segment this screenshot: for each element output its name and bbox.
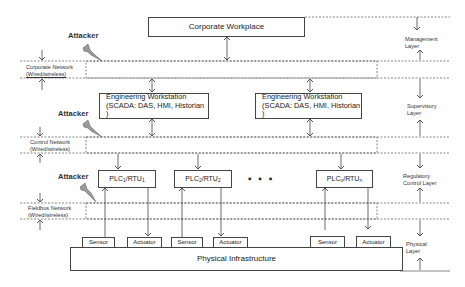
plc-label: PLCn/RTUn (327, 175, 362, 184)
plc-label: PLC1/RTU1 (109, 175, 144, 184)
physical-infrastructure-label: Physical Infrastructure (197, 254, 276, 263)
physical-infrastructure-box: Physical Infrastructure (70, 247, 403, 271)
plc-rtu-box: PLCn/RTUn (316, 170, 373, 188)
workstation-subtitle: (SCADA: DAS, HMI, Historian ) (262, 102, 361, 119)
ics-architecture-diagram: Corporate Workplace Engineering Workstat… (0, 0, 465, 287)
control-network-label: Control Network(Wired/wireless) (30, 139, 70, 153)
plc-rtu-box: PLC2/RTU2 (174, 170, 232, 188)
sensor-label: Sensor (89, 239, 108, 246)
plc-label: PLC2/RTU2 (185, 175, 220, 184)
actuator-label: Actuator (133, 239, 155, 246)
attacker-label: Attacker (68, 31, 98, 40)
ellipsis-more-plcs: ▪ ▪ ▪ (248, 173, 274, 184)
actuator-label: Actuator (362, 239, 384, 246)
corporate-workplace-label: Corporate Workplace (189, 22, 264, 31)
sensor-label: Sensor (318, 239, 337, 246)
corporate-workplace-box: Corporate Workplace (148, 17, 305, 37)
management-layer-label: ManagementLayer (405, 36, 438, 50)
attacker-label: Attacker (58, 172, 88, 181)
workstation-subtitle: (SCADA: DAS, HMI, Historian ) (106, 102, 208, 119)
engineering-workstation-box: Engineering Workstation (SCADA: DAS, HMI… (99, 93, 209, 119)
sensor-label: Sensor (177, 239, 196, 246)
attacker-label: Attacker (58, 109, 88, 118)
actuator-label: Actuator (219, 239, 241, 246)
engineering-workstation-box: Engineering Workstation (SCADA: DAS, HMI… (255, 93, 362, 119)
fieldbus-network-label: Fieldbus Network(Wired/wireless) (28, 205, 71, 219)
plc-rtu-box: PLC1/RTU1 (98, 170, 156, 188)
regulatory-control-layer-label: RegulatoryControl Layer (403, 173, 437, 187)
supervisory-layer-label: SupervisoryLayer (407, 103, 437, 117)
physical-layer-label: PhysicalLayer (406, 241, 427, 255)
corporate-network-label: Corporate Network(Wired/wireless) (26, 64, 73, 78)
